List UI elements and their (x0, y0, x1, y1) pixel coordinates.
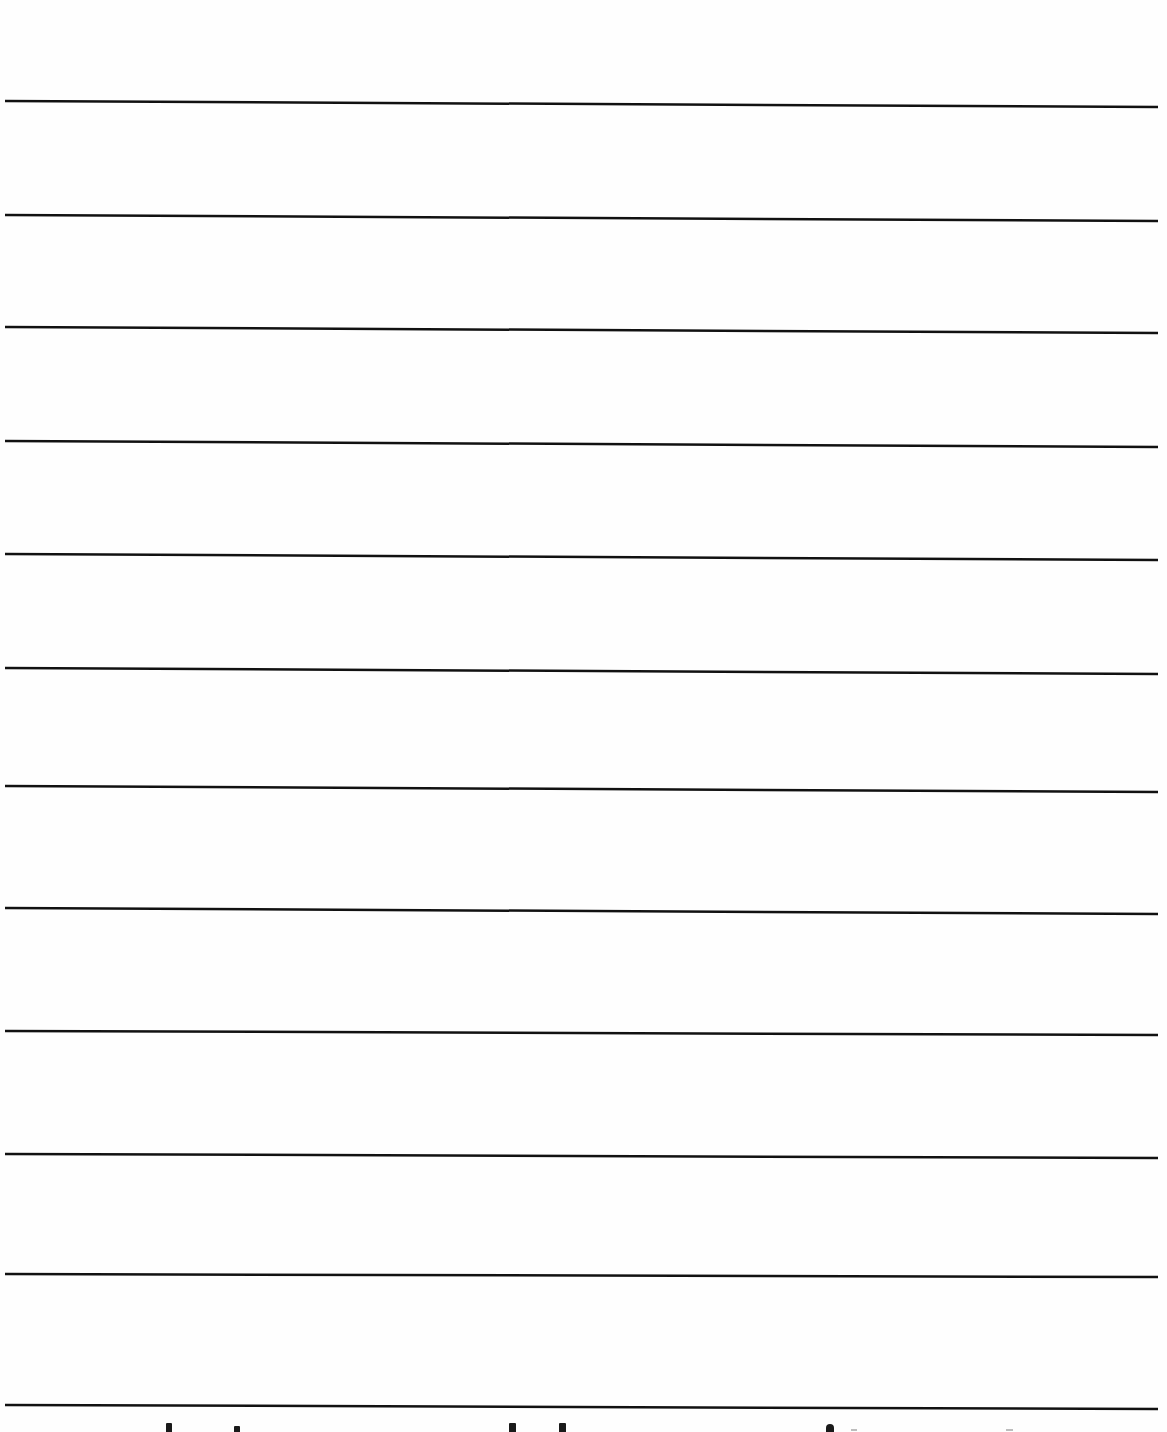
ruled-line-5 (5, 554, 1158, 560)
ruled-line-3 (5, 327, 1158, 333)
ruled-line-7 (5, 786, 1158, 792)
ruled-line-10 (5, 1154, 1158, 1158)
ruled-paper-page (0, 0, 1167, 1432)
ruled-line-6 (5, 668, 1158, 674)
ruled-line-8 (5, 908, 1158, 914)
ruled-line-12 (5, 1405, 1158, 1409)
cut-off-glyph-3 (509, 1423, 516, 1432)
cut-off-glyph-2 (234, 1426, 240, 1432)
ruled-line-2 (5, 215, 1158, 221)
cut-off-glyph-7 (1006, 1429, 1013, 1431)
cut-off-glyph-6 (851, 1429, 857, 1431)
ruled-lines (0, 0, 1167, 1432)
ruled-line-11 (5, 1274, 1158, 1277)
cut-off-glyph-5 (826, 1424, 834, 1432)
ruled-line-9 (5, 1031, 1158, 1035)
cut-off-glyph-1 (166, 1423, 172, 1432)
ruled-line-4 (5, 441, 1158, 447)
cut-off-glyph-4 (559, 1423, 566, 1432)
ruled-line-1 (5, 101, 1158, 107)
